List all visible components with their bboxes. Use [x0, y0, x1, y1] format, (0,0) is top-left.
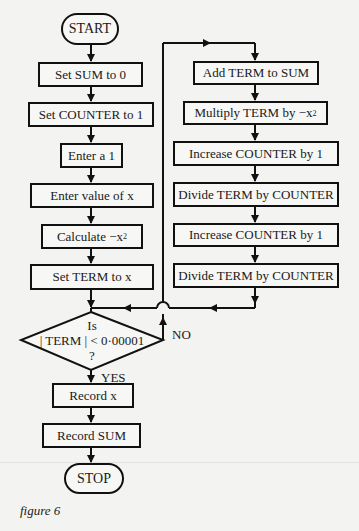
- decision-line-3: ?: [30, 348, 154, 363]
- divide-term-label-1: Divide TERM by COUNTER: [178, 187, 333, 203]
- increase-counter-step-2: Increase COUNTER by 1: [173, 223, 339, 247]
- set-sum-label: Set SUM to 0: [55, 67, 126, 83]
- set-counter-step: Set COUNTER to 1: [28, 102, 154, 127]
- enter-a1-step: Enter a 1: [60, 143, 123, 168]
- multiply-step: Multiply TERM by −x2: [183, 101, 328, 125]
- enter-x-label: Enter value of x: [50, 188, 133, 204]
- calculate-exponent: 2: [123, 232, 127, 241]
- increase-counter-label-2: Increase COUNTER by 1: [189, 227, 323, 243]
- calculate-step: Calculate −x2: [41, 224, 143, 249]
- figure-caption: figure 6: [20, 503, 60, 519]
- set-counter-label: Set COUNTER to 1: [39, 107, 143, 123]
- no-branch-label: NO: [172, 327, 191, 343]
- add-term-step: Add TERM to SUM: [193, 61, 319, 85]
- enter-x-step: Enter value of x: [30, 183, 154, 208]
- increase-counter-step-1: Increase COUNTER by 1: [173, 141, 339, 166]
- increase-counter-label-1: Increase COUNTER by 1: [189, 146, 323, 162]
- start-label: START: [69, 21, 111, 37]
- divide-term-label-2: Divide TERM by COUNTER: [178, 268, 333, 284]
- multiply-exponent: 2: [312, 109, 316, 118]
- record-x-step: Record x: [52, 383, 134, 408]
- set-term-label: Set TERM to x: [53, 269, 132, 285]
- decision-text: Is | TERM | < 0·00001 ?: [30, 318, 154, 363]
- record-sum-label: Record SUM: [57, 428, 126, 444]
- decision-line-1: Is: [30, 318, 154, 333]
- divide-term-step-1: Divide TERM by COUNTER: [173, 182, 339, 207]
- stop-terminal: STOP: [64, 463, 124, 494]
- decision-line-2: | TERM | < 0·00001: [30, 333, 154, 348]
- set-term-step: Set TERM to x: [30, 264, 154, 290]
- calculate-label: Calculate −x: [57, 229, 123, 245]
- divide-term-step-2: Divide TERM by COUNTER: [173, 263, 339, 288]
- multiply-label: Multiply TERM by −x: [195, 105, 313, 121]
- record-x-label: Record x: [69, 388, 116, 404]
- set-sum-step: Set SUM to 0: [38, 62, 143, 87]
- record-sum-step: Record SUM: [42, 423, 141, 448]
- start-terminal: START: [61, 13, 119, 45]
- enter-a1-label: Enter a 1: [68, 148, 115, 164]
- add-term-label: Add TERM to SUM: [203, 65, 309, 81]
- stop-label: STOP: [77, 471, 111, 487]
